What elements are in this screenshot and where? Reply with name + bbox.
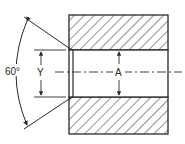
y-label: Y <box>37 67 44 78</box>
angle-label: 60° <box>5 66 20 77</box>
y-dimension: Y <box>34 50 66 97</box>
countersink-lines <box>24 17 69 129</box>
a-label: A <box>115 67 122 78</box>
angle-dimension: 60° <box>3 21 27 125</box>
section-drawing: 60° Y A <box>0 0 185 144</box>
bottom-wall-section <box>69 97 168 134</box>
top-wall-section <box>69 15 168 50</box>
